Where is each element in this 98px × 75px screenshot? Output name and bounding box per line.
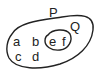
element-e: e	[49, 34, 56, 49]
element-a: a	[13, 34, 21, 49]
venn-diagram: P Q a b c d e f	[0, 0, 98, 75]
element-f: f	[62, 34, 66, 49]
element-d: d	[32, 49, 39, 64]
set-q-label: Q	[70, 19, 80, 34]
element-b: b	[32, 34, 39, 49]
element-c: c	[15, 49, 22, 64]
set-p-label: P	[49, 5, 58, 20]
